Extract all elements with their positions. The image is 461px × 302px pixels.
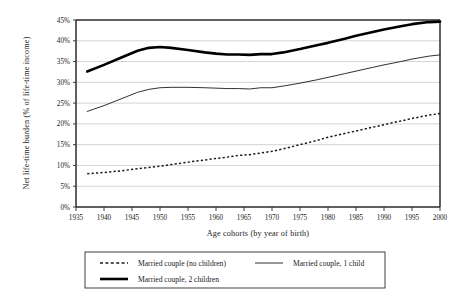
x-tick-label: 1945 — [125, 214, 140, 222]
legend-label-no-children: Married couple (no children) — [138, 259, 226, 268]
y-axis-tick-labels: 0%5%10%15%20%25%30%35%40%45% — [57, 17, 70, 212]
x-tick-label: 2000 — [433, 214, 448, 222]
legend-label-2-children: Married couple, 2 children — [138, 275, 219, 284]
y-tick-label: 10% — [57, 162, 70, 170]
x-tick-label: 1990 — [377, 214, 392, 222]
x-tick-label: 1950 — [153, 214, 168, 222]
y-tick-label: 30% — [57, 79, 70, 87]
y-tick-label: 5% — [60, 183, 70, 191]
x-axis-title: Age cohorts (by year of birth) — [207, 229, 310, 238]
x-tick-label: 1935 — [69, 214, 84, 222]
y-tick-label: 35% — [57, 58, 70, 66]
legend-label-1-child: Married couple, 1 child — [293, 259, 364, 268]
x-axis-tick-labels: 1935194019451950195519601965197019751980… — [69, 214, 448, 222]
y-tick-label: 15% — [57, 141, 70, 149]
y-axis-title: Net life-time burden (% of life-time inc… — [22, 36, 31, 189]
chart-figure: 0%5%10%15%20%25%30%35%40%45% 19351940194… — [0, 0, 461, 302]
x-tick-label: 1980 — [321, 214, 336, 222]
x-tick-label: 1955 — [181, 214, 196, 222]
x-tick-label: 1975 — [293, 214, 308, 222]
y-tick-label: 45% — [57, 17, 70, 25]
plot-axes — [76, 20, 440, 207]
x-tick-label: 1965 — [237, 214, 252, 222]
x-tick-label: 1995 — [405, 214, 420, 222]
x-tick-label: 1985 — [349, 214, 364, 222]
x-tick-label: 1940 — [97, 214, 112, 222]
data-series-group — [87, 22, 440, 174]
x-tick-label: 1960 — [209, 214, 224, 222]
y-tick-label: 0% — [60, 204, 70, 212]
chart-legend: Married couple (no children) Married cou… — [85, 252, 385, 288]
x-tick-label: 1970 — [265, 214, 280, 222]
y-tick-label: 20% — [57, 120, 70, 128]
legend-border — [85, 252, 385, 288]
y-tick-label: 25% — [57, 100, 70, 108]
plot-gridlines — [76, 41, 440, 186]
y-tick-label: 40% — [57, 37, 70, 45]
series-line-married-couple-no-children — [87, 114, 440, 174]
